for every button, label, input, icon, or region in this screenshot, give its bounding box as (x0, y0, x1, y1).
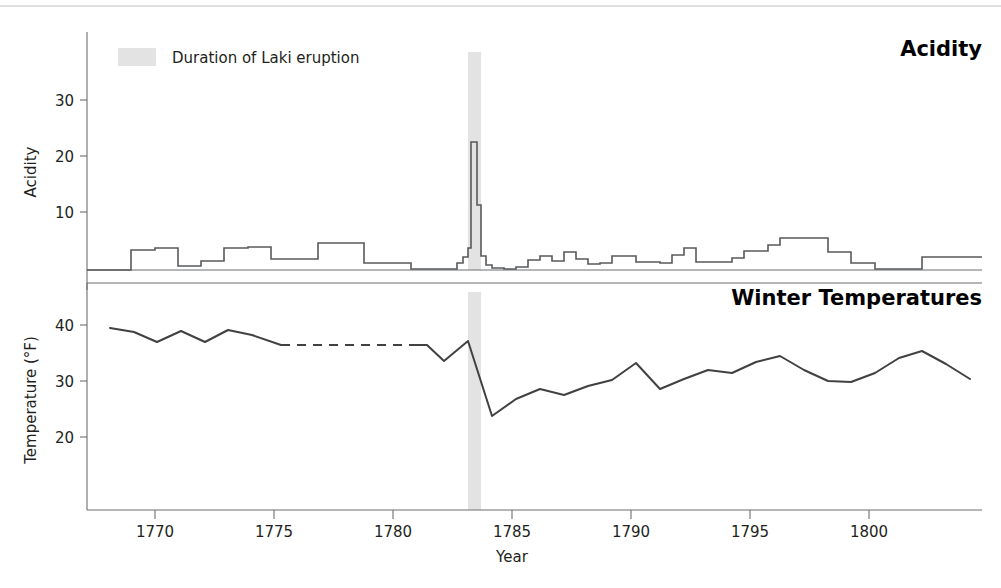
acidity-y-ticks (80, 100, 87, 212)
acidity-ytick-label-10: 10 (55, 204, 74, 222)
chart-canvas: 30 20 10 Acidity Duration of Laki erupti… (0, 0, 1001, 588)
xtick-label-1795: 1795 (731, 523, 769, 541)
xtick-label-1790: 1790 (612, 523, 650, 541)
temperature-series-observed-early (110, 328, 281, 345)
xtick-label-1770: 1770 (136, 523, 174, 541)
laki-eruption-band-acidity (468, 52, 481, 270)
x-axis-title: Year (495, 548, 529, 566)
xtick-label-1780: 1780 (374, 523, 412, 541)
temperature-ytick-label-40: 40 (55, 317, 74, 335)
temperature-ytick-label-20: 20 (55, 429, 74, 447)
acidity-panel-title: Acidity (900, 37, 982, 61)
temperature-y-ticks (80, 325, 87, 437)
eruption-band-swatch (118, 48, 156, 66)
xtick-label-1800: 1800 (850, 523, 888, 541)
winter-temperatures-panel: 40 30 20 Temperature (°F) (22, 283, 982, 566)
acidity-ytick-label-20: 20 (55, 148, 74, 166)
acidity-ytick-label-30: 30 (55, 92, 74, 110)
xtick-label-1775: 1775 (255, 523, 293, 541)
acidity-y-axis-title: Acidity (22, 146, 40, 197)
acidity-panel: 30 20 10 Acidity Duration of Laki erupti… (22, 32, 982, 290)
x-axis-ticks (155, 510, 869, 519)
acidity-step-series (87, 142, 982, 270)
temperature-series-observed-late (410, 341, 970, 416)
laki-eruption-figure: 30 20 10 Acidity Duration of Laki erupti… (0, 0, 1001, 588)
acidity-legend: Duration of Laki eruption (118, 48, 359, 67)
laki-eruption-band-temperature (468, 292, 481, 510)
temperature-ytick-label-30: 30 (55, 373, 74, 391)
xtick-label-1785: 1785 (493, 523, 531, 541)
temperature-y-axis-title: Temperature (°F) (22, 336, 40, 465)
temperature-panel-title: Winter Temperatures (731, 286, 982, 310)
legend-label-eruption: Duration of Laki eruption (172, 49, 359, 67)
